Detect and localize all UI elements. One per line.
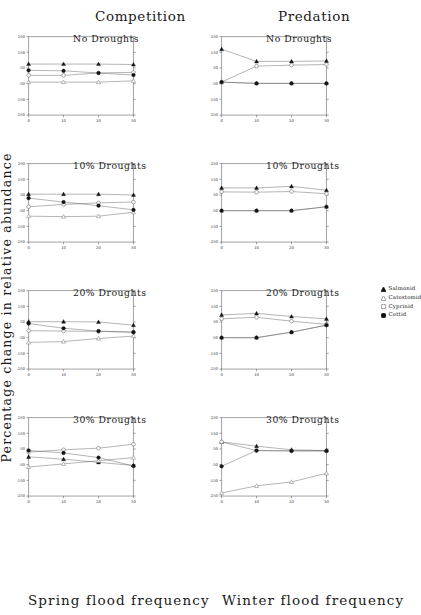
svg-text:0: 0 bbox=[220, 119, 223, 123]
svg-text:10: 10 bbox=[254, 246, 259, 250]
svg-text:-50: -50 bbox=[19, 82, 26, 86]
legend-marker-filled-triangle-icon bbox=[381, 286, 386, 291]
svg-text:-150: -150 bbox=[210, 98, 219, 102]
svg-text:-50: -50 bbox=[19, 463, 26, 467]
svg-text:-250: -250 bbox=[210, 494, 219, 498]
svg-text:20: 20 bbox=[289, 119, 294, 123]
svg-text:10: 10 bbox=[61, 373, 66, 377]
svg-text:-150: -150 bbox=[17, 479, 26, 483]
svg-text:150: 150 bbox=[211, 305, 219, 309]
svg-text:10: 10 bbox=[254, 500, 259, 504]
legend-marker-open-triangle-icon bbox=[381, 295, 386, 300]
svg-text:0: 0 bbox=[27, 119, 30, 123]
panel-title: 10% Droughts bbox=[73, 160, 147, 171]
svg-text:150: 150 bbox=[18, 432, 26, 436]
svg-text:-150: -150 bbox=[17, 225, 26, 229]
panel-competition-20-droughts: 25015050-50-150-2500102030 bbox=[35, 284, 154, 387]
panel-predation-10-droughts: 25015050-50-150-2500102030 bbox=[228, 157, 347, 260]
svg-text:-50: -50 bbox=[19, 209, 26, 213]
svg-text:50: 50 bbox=[20, 320, 25, 324]
svg-text:20: 20 bbox=[96, 500, 101, 504]
legend-label: Cyprinid bbox=[389, 302, 414, 311]
panel-title: 30% Droughts bbox=[266, 414, 340, 425]
svg-text:250: 250 bbox=[211, 289, 219, 293]
svg-text:0: 0 bbox=[220, 246, 223, 250]
panel-title: No Droughts bbox=[266, 33, 332, 44]
svg-text:50: 50 bbox=[213, 320, 218, 324]
svg-text:250: 250 bbox=[18, 35, 26, 39]
svg-text:10: 10 bbox=[61, 500, 66, 504]
svg-text:50: 50 bbox=[20, 193, 25, 197]
svg-text:-150: -150 bbox=[17, 98, 26, 102]
svg-text:10: 10 bbox=[254, 119, 259, 123]
svg-text:-50: -50 bbox=[212, 463, 219, 467]
legend-item-catostomid: Catostomid bbox=[381, 293, 421, 302]
svg-text:0: 0 bbox=[27, 500, 30, 504]
panel-competition-10-droughts: 25015050-50-150-2500102030 bbox=[35, 157, 154, 260]
panel-competition-no-droughts: 25015050-50-150-2500102030 bbox=[35, 30, 154, 133]
panel-title: 10% Droughts bbox=[266, 160, 340, 171]
svg-text:30: 30 bbox=[131, 119, 136, 123]
svg-text:20: 20 bbox=[289, 373, 294, 377]
svg-text:150: 150 bbox=[211, 51, 219, 55]
svg-text:-150: -150 bbox=[17, 352, 26, 356]
legend-label: Catostomid bbox=[389, 293, 421, 302]
panel-title: 20% Droughts bbox=[73, 287, 147, 298]
svg-text:30: 30 bbox=[131, 373, 136, 377]
svg-text:250: 250 bbox=[18, 416, 26, 420]
svg-text:30: 30 bbox=[131, 246, 136, 250]
legend: Salmonid Catostomid Cyprinid Cottid bbox=[381, 284, 421, 319]
svg-text:20: 20 bbox=[96, 119, 101, 123]
svg-text:10: 10 bbox=[254, 373, 259, 377]
svg-text:50: 50 bbox=[20, 66, 25, 70]
svg-text:150: 150 bbox=[211, 432, 219, 436]
svg-text:-250: -250 bbox=[210, 367, 219, 371]
panel-competition-30-droughts: 25015050-50-150-2500102030 bbox=[35, 411, 154, 514]
svg-text:-50: -50 bbox=[212, 82, 219, 86]
x-axis-title-winter: Winter flood frequency bbox=[222, 592, 404, 608]
x-axis-title-spring: Spring flood frequency bbox=[28, 592, 210, 608]
svg-text:0: 0 bbox=[27, 246, 30, 250]
svg-text:-250: -250 bbox=[210, 113, 219, 117]
svg-text:-150: -150 bbox=[210, 352, 219, 356]
legend-label: Salmonid bbox=[389, 284, 416, 293]
svg-text:-250: -250 bbox=[210, 240, 219, 244]
svg-text:150: 150 bbox=[18, 305, 26, 309]
svg-text:30: 30 bbox=[131, 500, 136, 504]
svg-text:-50: -50 bbox=[212, 336, 219, 340]
panel-title: No Droughts bbox=[73, 33, 139, 44]
svg-text:20: 20 bbox=[289, 500, 294, 504]
svg-text:150: 150 bbox=[18, 178, 26, 182]
legend-marker-open-circle-icon bbox=[381, 303, 386, 308]
legend-item-cyprinid: Cyprinid bbox=[381, 302, 421, 311]
svg-text:10: 10 bbox=[61, 119, 66, 123]
svg-text:30: 30 bbox=[324, 246, 329, 250]
legend-item-cottid: Cottid bbox=[381, 310, 421, 319]
svg-text:-250: -250 bbox=[17, 113, 26, 117]
svg-text:-250: -250 bbox=[17, 367, 26, 371]
svg-text:-50: -50 bbox=[212, 209, 219, 213]
svg-text:-150: -150 bbox=[210, 479, 219, 483]
svg-text:150: 150 bbox=[211, 178, 219, 182]
svg-text:-50: -50 bbox=[19, 336, 26, 340]
svg-text:250: 250 bbox=[211, 162, 219, 166]
column-title-competition: Competition bbox=[95, 8, 186, 24]
svg-text:-250: -250 bbox=[17, 240, 26, 244]
svg-text:50: 50 bbox=[213, 193, 218, 197]
svg-text:30: 30 bbox=[324, 500, 329, 504]
svg-text:-250: -250 bbox=[17, 494, 26, 498]
legend-label: Cottid bbox=[389, 310, 407, 319]
svg-text:250: 250 bbox=[211, 416, 219, 420]
panel-predation-30-droughts: 25015050-50-150-2500102030 bbox=[228, 411, 347, 514]
panel-title: 20% Droughts bbox=[266, 287, 340, 298]
svg-text:20: 20 bbox=[289, 246, 294, 250]
svg-text:250: 250 bbox=[18, 162, 26, 166]
svg-text:20: 20 bbox=[96, 373, 101, 377]
legend-marker-filled-circle-icon bbox=[381, 312, 386, 317]
svg-text:250: 250 bbox=[211, 35, 219, 39]
panel-predation-no-droughts: 25015050-50-150-2500102030 bbox=[228, 30, 347, 133]
svg-text:50: 50 bbox=[213, 66, 218, 70]
svg-text:-150: -150 bbox=[210, 225, 219, 229]
svg-text:0: 0 bbox=[220, 373, 223, 377]
